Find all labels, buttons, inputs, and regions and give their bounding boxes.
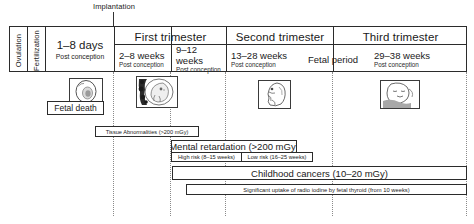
period-2-8-weeks: 2–8 weeks Post conception: [115, 46, 171, 72]
period-13-28-weeks-range: 13–28 weeks: [231, 50, 297, 61]
column-preimplantation: 1–8 days Post conception: [46, 27, 114, 73]
risk-bar-fetal-death: Fetal death: [47, 101, 104, 115]
period-29-38-weeks-subtitle: Post conception: [374, 61, 450, 69]
first-trimester-title: First trimester: [115, 28, 226, 45]
risk-bar-childhood-cancers: Childhood cancers (10–20 mGy): [172, 166, 467, 180]
preimplantation-duration: 1–8 days: [57, 39, 104, 52]
period-13-28-weeks-subtitle: Post conception: [231, 61, 297, 69]
second-trimester-title: Second trimester: [227, 28, 333, 45]
column-ovulation: Ovulation: [10, 27, 27, 73]
gestation-header-table: Ovulation Fertilization 1–8 days Post co…: [9, 26, 467, 72]
ovulation-label: Ovulation: [14, 33, 23, 67]
period-9-12-weeks-subtitle: Post conception: [176, 66, 226, 74]
risk-bar-radio-iodine: Significant uptake of radio iodine by fe…: [186, 184, 467, 195]
preimplantation-subtitle: Post conception: [56, 52, 104, 61]
period-2-8-weeks-range: 2–8 weeks: [119, 50, 171, 61]
period-29-38-weeks-range: 29–38 weeks: [374, 50, 450, 61]
period-9-12-weeks-range: 9–12 weeks: [176, 44, 226, 66]
risk-bar-low-risk: Low risk (16–25 weeks): [241, 152, 313, 162]
late-fetus-illustration: [380, 80, 420, 109]
period-29-38-weeks: 29–38 weeks Post conception: [370, 46, 450, 72]
column-fertilization: Fertilization: [28, 27, 45, 73]
implantation-label: Implantation: [72, 2, 156, 11]
fetal-period-label: Fetal period: [298, 46, 368, 72]
embryo-illustration: [136, 76, 178, 108]
third-trimester-title: Third trimester: [334, 28, 467, 45]
gestational-radiation-risk-diagram: Implantation Ovulation Fertilization 1–8…: [0, 0, 474, 224]
risk-bar-tissue-abnormalities: Tissue Abnormalities (>200 mGy): [95, 126, 199, 137]
period-9-12-weeks: 9–12 weeks Post conception: [172, 46, 226, 72]
guide-line-implantation: [113, 72, 114, 216]
period-13-28-weeks: 13–28 weeks Post conception: [227, 46, 297, 72]
risk-bar-high-risk: High risk (8–15 weeks): [171, 152, 242, 162]
fertilization-label: Fertilization: [32, 30, 41, 71]
fetus-illustration: [258, 80, 291, 109]
period-2-8-weeks-subtitle: Post conception: [119, 61, 171, 69]
